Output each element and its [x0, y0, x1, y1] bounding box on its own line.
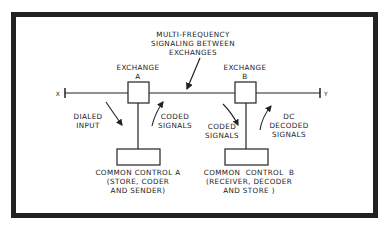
exchange-a-box [128, 82, 149, 103]
exchange-b-label: EXCHANGE B [215, 63, 275, 81]
main-line [65, 88, 320, 98]
coded-signals-a-label: CODED SIGNALS [154, 112, 196, 130]
mf-signaling-label: MULTI-FREQUENCY SIGNALING BETWEEN EXCHAN… [143, 30, 243, 57]
endpoint-y-label: Y [321, 89, 331, 98]
dialed-input-label: DIALED INPUT [68, 112, 108, 130]
coded-signals-b-label: CODED SIGNALS [201, 122, 243, 140]
endpoint-x-label: X [53, 89, 63, 98]
common-control-b-box [225, 149, 268, 165]
mf-signaling-arrow [187, 58, 200, 89]
dialed-input-arrow [106, 102, 122, 125]
common-control-b-label: COMMON CONTROL B (RECEIVER, DECODER AND … [199, 168, 299, 195]
common-control-a-label: COMMON CONTROL A (STORE, CODER AND SENDE… [90, 168, 186, 195]
common-control-a-box [117, 149, 160, 165]
exchange-a-label: EXCHANGE A [108, 63, 168, 81]
exchange-b-box [235, 82, 256, 103]
dc-decoded-signals-label: DC DECODED SIGNALS [265, 112, 313, 139]
